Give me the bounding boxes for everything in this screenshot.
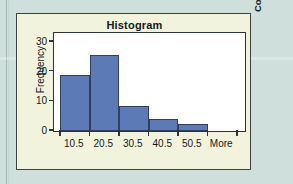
figure-card: Histogram Frequency 010203010.520.530.54… [16, 13, 251, 170]
screenshot-root: Histogram Frequency 010203010.520.530.54… [0, 0, 293, 184]
histogram-bar [178, 124, 208, 131]
page-margin-rule-secondary [8, 0, 9, 184]
plot-frame [53, 32, 246, 132]
plot-area [54, 33, 245, 131]
y-axis-tick-mark [49, 70, 54, 72]
y-axis-tick-mark [49, 40, 54, 42]
histogram-bar [119, 106, 149, 131]
x-axis-tick-mark [207, 130, 209, 136]
x-axis-tick-mark [89, 130, 91, 136]
x-axis-tick-mark [148, 130, 150, 136]
histogram-bar [60, 75, 90, 131]
histogram-bar [149, 119, 179, 131]
chart-title: Histogram [17, 19, 252, 31]
y-axis-tick-mark [49, 129, 54, 131]
copyright-notice: Copyright © Cengage Learning 2013 [252, 0, 263, 12]
y-axis-tick-label: 20 [27, 65, 47, 76]
y-axis-tick-mark [49, 100, 54, 102]
x-axis-tick-label: More [199, 138, 243, 149]
x-axis-tick-mark [177, 130, 179, 136]
page-margin-rule [6, 0, 7, 184]
x-axis-tick-mark [118, 130, 120, 136]
y-axis-tick-label: 0 [27, 125, 47, 136]
y-axis-tick-label: 30 [27, 35, 47, 46]
y-axis-tick-label: 10 [27, 95, 47, 106]
histogram-bar [90, 55, 120, 131]
x-axis-tick-mark [236, 130, 238, 136]
x-axis-tick-mark [59, 130, 61, 136]
